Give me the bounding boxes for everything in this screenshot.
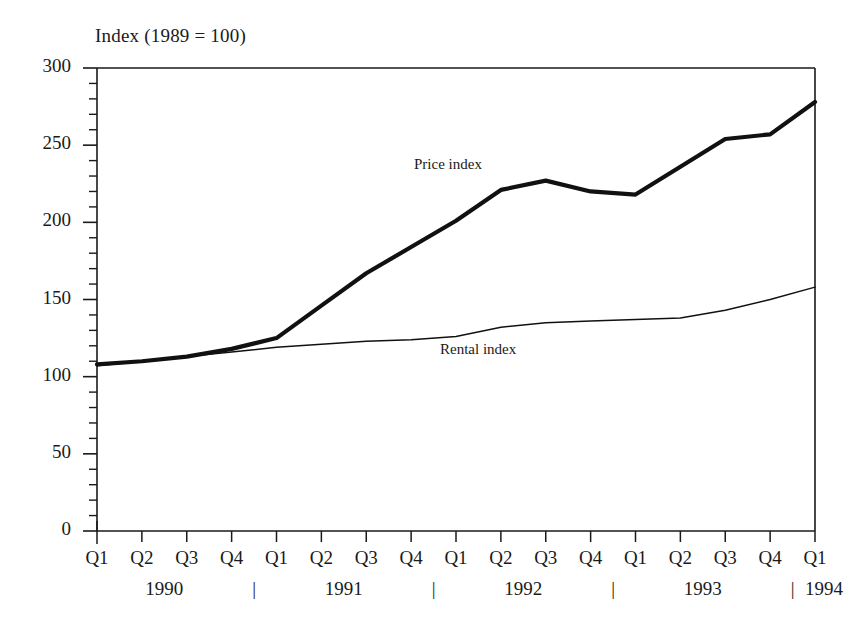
y-tick-label: 150 bbox=[25, 287, 71, 309]
x-tick-label-quarter: Q1 bbox=[792, 547, 838, 569]
x-axis-year-label: 1994 bbox=[805, 578, 865, 600]
x-tick-label-quarter: Q2 bbox=[298, 547, 344, 569]
axes bbox=[97, 68, 815, 531]
series-label-price-index: Price index bbox=[414, 156, 482, 173]
y-axis-major-ticks bbox=[83, 68, 97, 531]
x-tick-label-quarter: Q3 bbox=[523, 547, 569, 569]
x-tick-label-quarter: Q3 bbox=[702, 547, 748, 569]
x-axis-year-label: 1990 bbox=[134, 578, 194, 600]
x-axis-year-label: 1991 bbox=[314, 578, 374, 600]
x-tick-label-quarter: Q2 bbox=[119, 547, 165, 569]
series-label-rental-index: Rental index bbox=[440, 341, 516, 358]
x-axis-year-label: 1993 bbox=[673, 578, 733, 600]
x-axis-year-label: 1992 bbox=[493, 578, 553, 600]
chart-title: Index (1989 = 100) bbox=[95, 25, 246, 47]
x-axis-ticks bbox=[97, 521, 815, 544]
x-tick-label-quarter: Q2 bbox=[657, 547, 703, 569]
x-tick-label-quarter: Q1 bbox=[613, 547, 659, 569]
x-tick-label-quarter: Q4 bbox=[747, 547, 793, 569]
y-tick-label: 300 bbox=[25, 55, 71, 77]
x-tick-label-quarter: Q3 bbox=[164, 547, 210, 569]
x-axis-year-separator: | bbox=[603, 578, 623, 600]
x-tick-label-quarter: Q1 bbox=[74, 547, 120, 569]
chart-plot-area bbox=[0, 0, 868, 626]
x-axis-year-separator: | bbox=[424, 578, 444, 600]
y-tick-label: 200 bbox=[25, 209, 71, 231]
y-tick-label: 0 bbox=[25, 518, 71, 540]
x-tick-label-quarter: Q4 bbox=[568, 547, 614, 569]
x-tick-label-quarter: Q3 bbox=[343, 547, 389, 569]
y-tick-label: 100 bbox=[25, 364, 71, 386]
chart-figure: Index (1989 = 100) 050100150200250300 Q1… bbox=[0, 0, 868, 626]
x-tick-label-quarter: Q4 bbox=[388, 547, 434, 569]
x-tick-label-quarter: Q1 bbox=[433, 547, 479, 569]
x-axis-year-separator: | bbox=[244, 578, 264, 600]
x-tick-label-quarter: Q1 bbox=[254, 547, 300, 569]
x-tick-label-quarter: Q2 bbox=[478, 547, 524, 569]
y-tick-label: 50 bbox=[25, 441, 71, 463]
y-tick-label: 250 bbox=[25, 132, 71, 154]
x-tick-label-quarter: Q4 bbox=[209, 547, 255, 569]
series-line-price-index bbox=[97, 102, 815, 364]
x-axis-year-separator: | bbox=[783, 578, 803, 600]
